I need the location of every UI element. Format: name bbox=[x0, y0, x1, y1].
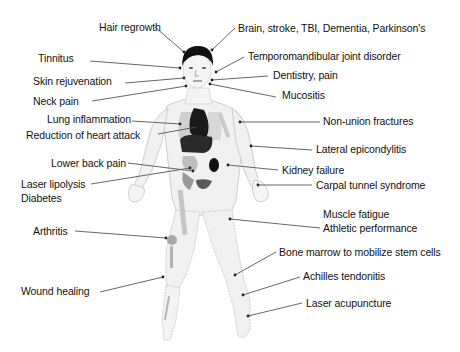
leader-line-tmj bbox=[216, 57, 244, 72]
label-arthritis: Arthritis bbox=[33, 225, 68, 238]
pointer-dot-laser-lipolysis bbox=[189, 167, 192, 170]
pointer-dot-lung-inflammation bbox=[179, 123, 182, 126]
pointer-dot-athletic-performance bbox=[229, 218, 232, 221]
pointer-dot-kidney-failure bbox=[227, 164, 230, 167]
label-hair-regrowth: Hair regrowth bbox=[99, 21, 161, 34]
leader-line-arthritis bbox=[75, 231, 166, 238]
leader-line-dentistry bbox=[212, 76, 268, 80]
label-non-union-fractures: Non-union fractures bbox=[323, 115, 413, 128]
label-athletic-performance: Athletic performance bbox=[323, 222, 417, 235]
label-heart-attack: Reduction of heart attack bbox=[26, 129, 140, 142]
label-neck-pain: Neck pain bbox=[33, 95, 79, 108]
pointer-dot-non-union-fractures bbox=[239, 121, 242, 124]
leader-line-tinnitus bbox=[90, 61, 180, 68]
label-bone-marrow: Bone marrow to mobilize stem cells bbox=[279, 246, 441, 259]
pointer-dot-dentistry bbox=[211, 79, 214, 82]
leader-line-achilles bbox=[243, 277, 300, 295]
kidney bbox=[209, 158, 219, 172]
pointer-dot-bone-marrow bbox=[234, 274, 237, 277]
pointer-dot-laser-acupuncture bbox=[247, 315, 250, 318]
label-wound-healing: Wound healing bbox=[21, 285, 90, 298]
leader-line-athletic-performance bbox=[230, 219, 320, 228]
pointer-dot-hair-regrowth bbox=[183, 51, 186, 54]
label-skin-rejuvenation: Skin rejuvenation bbox=[33, 75, 112, 88]
pointer-dot-achilles bbox=[242, 294, 245, 297]
leader-line-bone-marrow bbox=[235, 252, 276, 275]
label-tinnitus: Tinnitus bbox=[38, 52, 74, 65]
label-achilles: Achilles tendonitis bbox=[303, 270, 385, 283]
pointer-dot-heart-attack bbox=[196, 126, 199, 129]
leader-line-laser-acupuncture bbox=[248, 303, 302, 316]
label-carpal-tunnel: Carpal tunnel syndrome bbox=[316, 179, 425, 192]
pointer-dot-tinnitus bbox=[179, 67, 182, 70]
pointer-dot-wound-healing bbox=[162, 276, 165, 279]
pointer-dot-lower-back-pain bbox=[192, 170, 195, 173]
leader-line-mucositis bbox=[210, 84, 276, 97]
leader-line-wound-healing bbox=[100, 277, 163, 292]
diagram-canvas: Hair regrowthBrain, stroke, TBI, Dementi… bbox=[0, 0, 460, 352]
pointer-dot-tmj bbox=[215, 71, 218, 74]
leader-line-lateral-epicondylitis bbox=[251, 146, 312, 150]
label-laser-acupuncture: Laser acupuncture bbox=[306, 297, 391, 310]
liver bbox=[180, 135, 212, 153]
pointer-dot-arthritis bbox=[165, 237, 168, 240]
label-lateral-epicondylitis: Lateral epicondylitis bbox=[316, 143, 406, 156]
pointer-dot-mucositis bbox=[209, 83, 212, 86]
leader-line-neck-pain bbox=[92, 86, 186, 101]
label-muscle-fatigue: Muscle fatigue bbox=[323, 208, 389, 221]
label-laser-lipolysis: Laser lipolysis bbox=[21, 178, 85, 191]
pointer-dot-brain bbox=[211, 49, 214, 52]
label-mucositis: Mucositis bbox=[282, 89, 325, 102]
pointer-dot-carpal-tunnel bbox=[257, 184, 260, 187]
leader-line-brain bbox=[212, 28, 235, 50]
pointer-dot-skin-rejuvenation bbox=[183, 77, 186, 80]
label-kidney-failure: Kidney failure bbox=[282, 164, 344, 177]
label-tmj: Temporomandibular joint disorder bbox=[248, 50, 401, 63]
pointer-dot-neck-pain bbox=[185, 85, 188, 88]
label-dentistry: Dentistry, pain bbox=[273, 69, 338, 82]
label-lower-back-pain: Lower back pain bbox=[51, 157, 126, 170]
head bbox=[182, 46, 213, 88]
label-diabetes: Diabetes bbox=[21, 192, 62, 205]
knee-joint bbox=[167, 235, 177, 245]
pointer-dot-lateral-epicondylitis bbox=[250, 145, 253, 148]
leader-line-skin-rejuvenation bbox=[125, 78, 184, 83]
label-lung-inflammation: Lung inflammation bbox=[47, 113, 131, 126]
label-brain: Brain, stroke, TBI, Dementia, Parkinson'… bbox=[238, 22, 425, 35]
